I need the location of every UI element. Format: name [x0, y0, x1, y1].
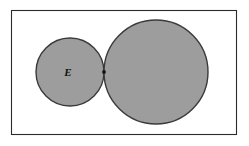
- figure-container: E: [0, 0, 249, 146]
- region-label-e: E: [64, 67, 71, 78]
- tangent-circles-figure: [0, 0, 249, 146]
- tangency-point-dot: [102, 70, 106, 74]
- large-disk-shape: [104, 20, 208, 124]
